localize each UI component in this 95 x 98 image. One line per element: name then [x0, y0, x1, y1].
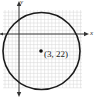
center-point: [39, 49, 43, 53]
center-point-label: (3, 22): [44, 50, 68, 59]
x-axis-left-arrow-icon: [0, 33, 3, 36]
x-axis-arrow-icon: [84, 32, 89, 36]
x-axis-label: x: [90, 30, 93, 37]
y-axis-label: y: [20, 0, 23, 6]
y-axis-down-arrow-icon: [17, 92, 21, 97]
